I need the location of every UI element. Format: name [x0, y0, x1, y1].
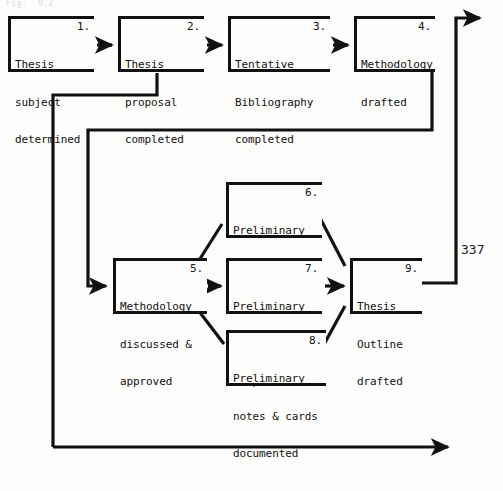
node-5-line-2: discussed & — [120, 339, 204, 352]
node-6[interactable]: 6. Preliminary interviewing completed — [226, 182, 322, 238]
node-7[interactable]: 7. Preliminary reading completed — [226, 258, 322, 314]
connector-6-to-9 — [318, 214, 345, 266]
node-8-number: 8. — [309, 335, 322, 348]
node-4[interactable]: 4. Methodology drafted — [354, 16, 435, 72]
node-4-line-2: drafted — [361, 97, 432, 110]
flowchart-page: Fig. 9.2 — [0, 0, 503, 491]
page-number: 337 — [461, 242, 484, 257]
node-2-line-2: proposal — [125, 97, 201, 110]
node-2-line-3: completed — [125, 134, 201, 147]
node-1[interactable]: 1. Thesis subject determined — [8, 16, 94, 72]
node-3-line-1: Tentative — [235, 59, 327, 72]
connector-5-to-6 — [198, 224, 222, 262]
node-3-line-2: Bibliography — [235, 97, 327, 110]
node-2-number: 2. — [187, 21, 200, 34]
node-1-number: 1. — [77, 21, 90, 34]
node-3-line-3: completed — [235, 134, 327, 147]
node-3-number: 3. — [313, 21, 326, 34]
node-5-line-1: Methodology — [120, 301, 204, 314]
node-5-line-3: approved — [120, 376, 204, 389]
node-9-line-1: Thesis — [357, 301, 419, 314]
node-4-number: 4. — [418, 21, 431, 34]
node-7-number: 7. — [305, 263, 318, 276]
node-2[interactable]: 2. Thesis proposal completed — [118, 16, 204, 72]
node-8-line-3: documented — [233, 448, 323, 461]
node-1-line-3: determined — [15, 134, 91, 147]
node-6-line-1: Preliminary — [233, 225, 319, 238]
node-4-line-1: Methodology — [361, 59, 432, 72]
node-8-line-1: Preliminary — [233, 373, 323, 386]
node-7-line-1: Preliminary — [233, 301, 319, 314]
node-1-line-2: subject — [15, 97, 91, 110]
node-6-number: 6. — [305, 187, 318, 200]
node-9[interactable]: 9. Thesis Outline drafted — [350, 258, 422, 314]
node-9-number: 9. — [405, 263, 418, 276]
node-5[interactable]: 5. Methodology discussed & approved — [113, 258, 207, 314]
node-8-line-2: notes & cards — [233, 411, 323, 424]
node-9-line-2: Outline — [357, 339, 419, 352]
node-8[interactable]: 8. Preliminary notes & cards documented — [226, 330, 326, 386]
node-1-line-1: Thesis — [15, 59, 91, 72]
node-3[interactable]: 3. Tentative Bibliography completed — [228, 16, 330, 72]
node-9-line-3: drafted — [357, 376, 419, 389]
node-2-line-1: Thesis — [125, 59, 201, 72]
node-5-number: 5. — [190, 263, 203, 276]
